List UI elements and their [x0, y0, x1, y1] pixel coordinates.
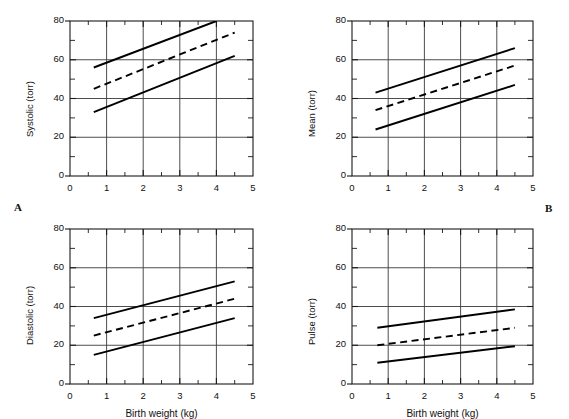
x-tick-label-diastolic-5: 5 — [239, 390, 267, 401]
series-line-diastolic-2 — [94, 318, 235, 355]
series-line-pulse-0 — [377, 309, 515, 327]
series-line-systolic-2 — [94, 56, 235, 112]
y-tick-label-mean-20: 20 — [318, 130, 346, 141]
y-tick-label-diastolic-40: 40 — [36, 300, 64, 311]
y-tick-label-pulse-20: 20 — [318, 338, 346, 349]
x-tick-label-mean-0: 0 — [338, 182, 366, 193]
x-tick-label-pulse-1: 1 — [374, 390, 402, 401]
y-tick-label-pulse-80: 80 — [318, 222, 346, 233]
x-tick-label-systolic-2: 2 — [129, 182, 157, 193]
y-axis-title-diastolic: Diastolic (torr) — [24, 285, 35, 344]
chart-panel-pulse: 020406080Pulse (torr)012345Birth weight … — [285, 207, 569, 414]
y-tick-label-pulse-40: 40 — [318, 300, 346, 311]
y-tick-label-diastolic-80: 80 — [36, 222, 64, 233]
y-axis-title-pulse: Pulse (torr) — [306, 298, 317, 345]
series-line-pulse-1 — [377, 328, 515, 345]
x-tick-label-diastolic-4: 4 — [202, 390, 230, 401]
y-tick-label-mean-60: 60 — [318, 53, 346, 64]
series-line-diastolic-1 — [94, 299, 235, 336]
x-tick-label-mean-1: 1 — [374, 182, 402, 193]
y-tick-label-systolic-40: 40 — [36, 92, 64, 103]
x-tick-label-pulse-2: 2 — [410, 390, 438, 401]
y-tick-label-mean-80: 80 — [318, 14, 346, 25]
x-axis-title-pulse: Birth weight (kg) — [332, 408, 553, 419]
chart-panel-mean: 020406080Mean (torr)012345 — [285, 0, 569, 207]
x-tick-label-diastolic-0: 0 — [56, 390, 84, 401]
y-tick-label-systolic-80: 80 — [36, 14, 64, 25]
x-tick-label-pulse-3: 3 — [447, 390, 475, 401]
x-tick-label-mean-5: 5 — [519, 182, 547, 193]
series-line-pulse-2 — [377, 346, 515, 362]
y-tick-label-diastolic-0: 0 — [36, 377, 64, 388]
y-tick-label-diastolic-60: 60 — [36, 261, 64, 272]
y-tick-label-systolic-20: 20 — [36, 130, 64, 141]
y-tick-label-systolic-60: 60 — [36, 53, 64, 64]
x-axis-title-diastolic: Birth weight (kg) — [50, 408, 273, 419]
x-tick-label-mean-2: 2 — [410, 182, 438, 193]
x-tick-label-mean-3: 3 — [447, 182, 475, 193]
x-tick-label-pulse-0: 0 — [338, 390, 366, 401]
y-tick-label-pulse-0: 0 — [318, 377, 346, 388]
series-line-mean-1 — [376, 66, 515, 111]
chart-panel-diastolic: 020406080Diastolic (torr)012345Birth wei… — [0, 207, 285, 414]
y-axis-title-systolic: Systolic (torr) — [24, 81, 35, 137]
x-tick-label-pulse-5: 5 — [519, 390, 547, 401]
y-tick-label-mean-40: 40 — [318, 92, 346, 103]
y-tick-label-diastolic-20: 20 — [36, 338, 64, 349]
y-axis-title-mean: Mean (torr) — [306, 90, 317, 137]
series-line-mean-2 — [376, 85, 515, 130]
chart-panel-systolic: 020406080Systolic (torr)012345 — [0, 0, 285, 207]
x-tick-label-systolic-1: 1 — [93, 182, 121, 193]
series-line-mean-0 — [376, 48, 515, 93]
series-line-diastolic-0 — [94, 281, 235, 318]
x-tick-label-systolic-5: 5 — [239, 182, 267, 193]
y-tick-label-systolic-0: 0 — [36, 169, 64, 180]
series-line-systolic-0 — [94, 21, 217, 68]
x-tick-label-systolic-4: 4 — [202, 182, 230, 193]
x-tick-label-diastolic-3: 3 — [166, 390, 194, 401]
y-tick-label-pulse-60: 60 — [318, 261, 346, 272]
y-tick-label-mean-0: 0 — [318, 169, 346, 180]
x-tick-label-diastolic-2: 2 — [129, 390, 157, 401]
x-tick-label-mean-4: 4 — [483, 182, 511, 193]
x-tick-label-systolic-0: 0 — [56, 182, 84, 193]
x-tick-label-diastolic-1: 1 — [93, 390, 121, 401]
x-tick-label-systolic-3: 3 — [166, 182, 194, 193]
x-tick-label-pulse-4: 4 — [483, 390, 511, 401]
